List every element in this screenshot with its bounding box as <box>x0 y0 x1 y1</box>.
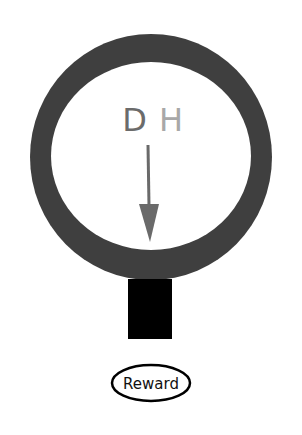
stem-bar <box>128 279 172 339</box>
letter-d: D <box>122 101 147 139</box>
reward-node: Reward <box>112 365 190 401</box>
reward-label: Reward <box>123 375 179 393</box>
letter-h: H <box>159 101 183 139</box>
diagram-canvas: D H Reward <box>0 0 302 435</box>
